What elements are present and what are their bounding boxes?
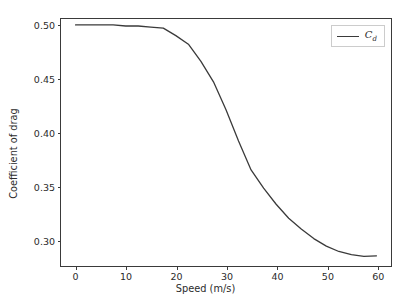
legend-label-cd: Cd [365,29,377,43]
x-tick-label: 10 [120,271,132,282]
y-tick-mark [58,187,62,188]
plot-axes-area: 0.300.350.400.450.50 0102030405060 Cd [60,18,392,267]
line-series-plot [61,19,391,266]
y-tick-mark [58,241,62,242]
legend-label-base: C [365,29,373,40]
x-tick-mark [227,266,228,270]
y-axis-label-text: Coefficient of drag [8,108,19,199]
x-tick-mark [328,266,329,270]
y-tick-mark [58,133,62,134]
figure-canvas: Coefficient of drag 0.300.350.400.450.50… [0,0,411,306]
x-tick-mark [378,266,379,270]
x-axis-label: Speed (m/s) [0,283,411,294]
x-tick-mark [277,266,278,270]
y-tick-mark [58,25,62,26]
y-tick-label: 0.30 [34,236,55,247]
y-tick-label: 0.40 [34,128,55,139]
y-tick-label: 0.45 [34,74,55,85]
x-axis-label-text: Speed (m/s) [176,283,235,294]
x-tick-label: 30 [221,271,233,282]
x-tick-mark [76,266,77,270]
y-axis-label: Coefficient of drag [6,0,20,306]
y-tick-label: 0.35 [34,182,55,193]
x-tick-mark [177,266,178,270]
x-tick-label: 0 [73,271,79,282]
legend-line-sample-cd [337,36,359,37]
x-tick-label: 20 [170,271,182,282]
y-tick-mark [58,79,62,80]
x-tick-mark [126,266,127,270]
legend-label-subscript: d [373,35,377,43]
legend-box[interactable]: Cd [331,25,385,47]
x-tick-label: 60 [372,271,384,282]
x-tick-label: 50 [322,271,334,282]
x-tick-label: 40 [271,271,283,282]
y-tick-label: 0.50 [34,19,55,30]
series-line-cd [76,25,377,256]
